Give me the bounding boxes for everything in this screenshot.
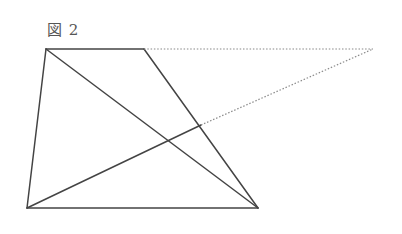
geometry-diagram bbox=[0, 0, 402, 234]
segment-be bbox=[27, 125, 201, 208]
extension-ep bbox=[201, 49, 373, 125]
solid-lines bbox=[27, 49, 258, 208]
left-edge-ab bbox=[27, 49, 46, 208]
right-edge-dc bbox=[144, 49, 258, 208]
dotted-lines bbox=[144, 49, 373, 125]
